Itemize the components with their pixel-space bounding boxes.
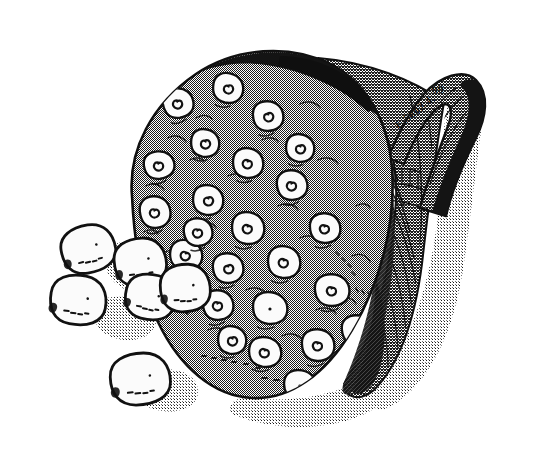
seed-attached <box>158 263 212 314</box>
cavity-rim <box>231 211 266 245</box>
lotus-seed-pod-illustration <box>0 0 536 453</box>
illustration-canvas: E.5602.4. 99 <box>0 0 536 453</box>
cavity-rim <box>309 212 341 243</box>
cavity-rim <box>301 328 335 362</box>
cavity-rim <box>314 273 351 307</box>
cavity-rim <box>232 147 264 178</box>
seed-outline <box>159 263 212 314</box>
seed-outline <box>48 273 109 328</box>
seed-mid-left <box>47 272 108 327</box>
cavity-rim <box>252 100 284 132</box>
pod-face-group <box>132 51 393 406</box>
cavity-rim <box>267 245 301 279</box>
accession-year-text: 99 <box>431 82 445 96</box>
